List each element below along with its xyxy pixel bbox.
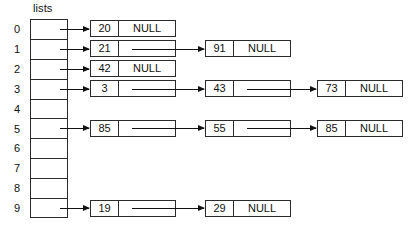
node-value: 3	[91, 81, 119, 96]
node-value: 55	[206, 121, 234, 136]
node-value: 19	[91, 201, 119, 216]
node-value: 21	[91, 41, 119, 56]
array-index-5: 5	[8, 123, 26, 135]
node-next-pointer: NULL	[234, 41, 290, 56]
array-cell-7[interactable]	[31, 159, 67, 179]
node-value: 85	[318, 121, 346, 136]
bucket-arrow-3	[60, 89, 89, 90]
bucket-arrow-5	[60, 128, 89, 129]
node-next-pointer: NULL	[346, 81, 402, 96]
node-next-pointer: NULL	[234, 201, 290, 216]
node-value: 91	[206, 41, 234, 56]
array-index-2: 2	[8, 63, 26, 75]
bucket-arrow-0	[60, 29, 89, 30]
array-index-6: 6	[8, 142, 26, 154]
bucket-arrow-9	[60, 208, 89, 209]
list-node[interactable]: 42NULL	[90, 60, 176, 77]
node-next-pointer: NULL	[119, 61, 175, 76]
node-value: 20	[91, 21, 119, 36]
node-value: 85	[91, 121, 119, 136]
next-pointer-arrow	[247, 89, 316, 90]
array-index-4: 4	[8, 103, 26, 115]
list-node[interactable]: 20NULL	[90, 20, 176, 37]
node-value: 43	[206, 81, 234, 96]
list-node[interactable]: 73NULL	[317, 80, 403, 97]
next-pointer-arrow	[132, 49, 204, 50]
array-index-9: 9	[8, 202, 26, 214]
node-value: 29	[206, 201, 234, 216]
list-node[interactable]: 91NULL	[205, 40, 291, 57]
array-index-1: 1	[8, 43, 26, 55]
array-index-8: 8	[8, 182, 26, 194]
node-next-pointer: NULL	[346, 121, 402, 136]
next-pointer-arrow	[247, 128, 316, 129]
hash-table-chaining-diagram: lists 0123456789 20NULL2191NULL42NULL343…	[0, 0, 417, 233]
array-index-3: 3	[8, 83, 26, 95]
array-cell-8[interactable]	[31, 179, 67, 199]
bucket-arrow-1	[60, 49, 89, 50]
node-next-pointer: NULL	[119, 21, 175, 36]
node-value: 73	[318, 81, 346, 96]
node-value: 42	[91, 61, 119, 76]
array-title-label: lists	[33, 2, 52, 15]
array-cell-4[interactable]	[31, 100, 67, 120]
list-node[interactable]: 85NULL	[317, 120, 403, 137]
array-index-0: 0	[8, 23, 26, 35]
next-pointer-arrow	[132, 208, 204, 209]
bucket-arrow-2	[60, 69, 89, 70]
array-cell-9[interactable]	[31, 199, 67, 219]
next-pointer-arrow	[132, 128, 204, 129]
array-cell-6[interactable]	[31, 139, 67, 159]
array-index-7: 7	[8, 162, 26, 174]
next-pointer-arrow	[132, 89, 204, 90]
array-cell-5[interactable]	[31, 120, 67, 140]
list-node[interactable]: 29NULL	[205, 200, 291, 217]
